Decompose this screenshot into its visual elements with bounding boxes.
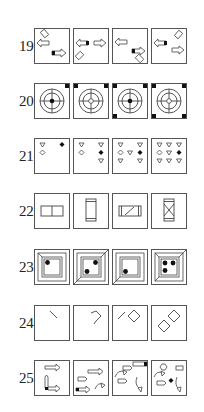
panel-25-2[interactable] — [73, 360, 109, 396]
panel-25-4[interactable] — [151, 360, 187, 396]
rectangle-figure-icon — [35, 194, 69, 228]
panel-22-1[interactable] — [34, 193, 70, 229]
question-20: 20. — [0, 83, 204, 119]
question-24: 24. — [0, 305, 204, 341]
mixed-shapes-figure-icon — [113, 361, 147, 395]
panel-23-4[interactable] — [151, 249, 187, 285]
frame-figure-icon — [35, 250, 69, 284]
panel-21-2[interactable] — [73, 138, 109, 174]
question-22: 22. — [0, 193, 204, 229]
arrow-figure-icon — [113, 29, 147, 63]
panel-21-1[interactable] — [34, 138, 70, 174]
panel-23-3[interactable] — [112, 249, 148, 285]
rectangle-figure-icon — [152, 194, 186, 228]
mixed-shapes-figure-icon — [74, 361, 108, 395]
panel-24-1[interactable] — [34, 305, 70, 341]
rectangle-figure-icon — [74, 194, 108, 228]
question-19: 19. — [0, 28, 204, 64]
question-23: 23. — [0, 249, 204, 285]
symbols-figure-icon — [152, 139, 186, 173]
frame-figure-icon — [152, 250, 186, 284]
panel-22-3[interactable] — [112, 193, 148, 229]
panel-22-4[interactable] — [151, 193, 187, 229]
mixed-shapes-figure-icon — [152, 361, 186, 395]
mixed-shapes-figure-icon — [35, 361, 69, 395]
target-figure-icon — [113, 84, 147, 118]
question-25: 25. — [0, 360, 204, 396]
panel-23-1[interactable] — [34, 249, 70, 285]
frame-figure-icon — [113, 250, 147, 284]
panel-20-4[interactable] — [151, 83, 187, 119]
line-figure-icon — [152, 306, 186, 340]
panel-20-1[interactable] — [34, 83, 70, 119]
panel-24-2[interactable] — [73, 305, 109, 341]
panel-19-1[interactable] — [34, 28, 70, 64]
panel-19-4[interactable] — [151, 28, 187, 64]
symbols-figure-icon — [113, 139, 147, 173]
arrow-figure-icon — [35, 29, 69, 63]
symbols-figure-icon — [35, 139, 69, 173]
panel-21-4[interactable] — [151, 138, 187, 174]
target-figure-icon — [152, 84, 186, 118]
panel-19-3[interactable] — [112, 28, 148, 64]
panel-25-1[interactable] — [34, 360, 70, 396]
panel-20-3[interactable] — [112, 83, 148, 119]
panel-19-2[interactable] — [73, 28, 109, 64]
target-figure-icon — [74, 84, 108, 118]
panel-20-2[interactable] — [73, 83, 109, 119]
line-figure-icon — [113, 306, 147, 340]
arrow-figure-icon — [74, 29, 108, 63]
symbols-figure-icon — [74, 139, 108, 173]
line-figure-icon — [35, 306, 69, 340]
panel-24-3[interactable] — [112, 305, 148, 341]
panel-25-3[interactable] — [112, 360, 148, 396]
target-figure-icon — [35, 84, 69, 118]
panel-21-3[interactable] — [112, 138, 148, 174]
panel-23-2[interactable] — [73, 249, 109, 285]
panel-22-2[interactable] — [73, 193, 109, 229]
frame-figure-icon — [74, 250, 108, 284]
rectangle-figure-icon — [113, 194, 147, 228]
panel-24-4[interactable] — [151, 305, 187, 341]
arrow-figure-icon — [152, 29, 186, 63]
line-figure-icon — [74, 306, 108, 340]
question-21: 21. — [0, 138, 204, 174]
